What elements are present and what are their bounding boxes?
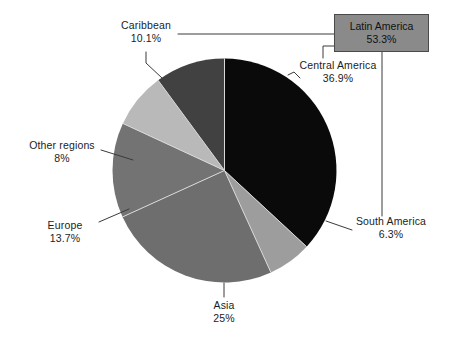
- slice-label-asia-value: 25%: [186, 312, 262, 325]
- slice-label-europe-value: 13.7%: [28, 232, 102, 245]
- slice-label-south-america-name: South America: [344, 215, 438, 228]
- slice-label-europe-name: Europe: [28, 219, 102, 232]
- slice-label-central-america-value: 36.9%: [290, 72, 386, 85]
- connector-latin-central: [323, 46, 334, 58]
- slice-label-caribbean-name: Caribbean: [108, 19, 184, 32]
- slice-label-asia: Asia 25%: [186, 299, 262, 325]
- slice-label-other-regions-value: 8%: [18, 152, 106, 165]
- leader-line-caribbean: [146, 52, 162, 78]
- latin-america-summary-box: Latin America 53.3%: [334, 14, 429, 52]
- latin-america-label: Latin America: [350, 20, 414, 33]
- pie-chart-figure: Caribbean 10.1% Central America 36.9% Ot…: [0, 0, 451, 342]
- slice-label-caribbean: Caribbean 10.1%: [108, 19, 184, 45]
- slice-label-europe: Europe 13.7%: [28, 219, 102, 245]
- slice-label-central-america-name: Central America: [290, 59, 386, 72]
- slice-label-south-america: South America 6.3%: [344, 215, 438, 241]
- slice-label-asia-name: Asia: [186, 299, 262, 312]
- latin-america-value: 53.3%: [367, 33, 397, 46]
- slice-label-south-america-value: 6.3%: [344, 228, 438, 241]
- slice-label-other-regions: Other regions 8%: [18, 139, 106, 165]
- slice-label-central-america: Central America 36.9%: [290, 59, 386, 85]
- slice-label-caribbean-value: 10.1%: [108, 32, 184, 45]
- slice-label-other-regions-name: Other regions: [18, 139, 106, 152]
